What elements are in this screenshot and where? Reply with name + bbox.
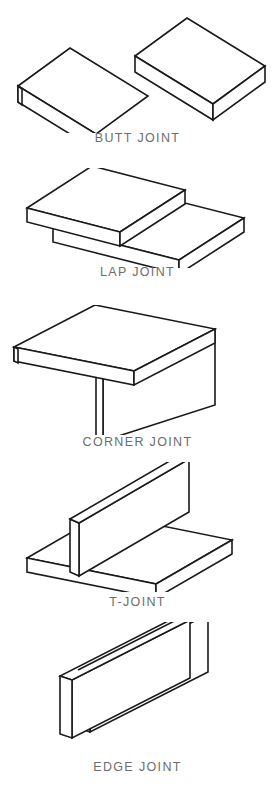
label-t-joint: T-JOINT — [0, 595, 275, 609]
corner-horizontal-plate-end — [14, 347, 18, 363]
figure-butt-joint — [0, 8, 275, 133]
lap-joint-drawing — [0, 168, 275, 268]
edge-near-plate-edge — [60, 676, 72, 738]
label-corner-joint: CORNER JOINT — [0, 435, 275, 449]
figure-lap-joint — [0, 168, 275, 268]
welding-joints-diagram: BUTT JOINT LAP JOINT — [0, 0, 275, 791]
butt-left-plate-end — [18, 86, 22, 105]
edge-joint-drawing — [0, 622, 275, 757]
figure-edge-joint — [0, 622, 275, 757]
label-lap-joint: LAP JOINT — [0, 265, 275, 279]
corner-joint-drawing — [0, 305, 275, 435]
t-joint-drawing — [0, 462, 275, 592]
t-vertical-plate-edge — [70, 519, 79, 576]
label-edge-joint: EDGE JOINT — [0, 760, 275, 774]
figure-corner-joint — [0, 305, 275, 435]
label-butt-joint: BUTT JOINT — [0, 131, 275, 145]
butt-left-plate-top — [18, 48, 148, 133]
butt-joint-drawing — [0, 8, 275, 133]
figure-t-joint — [0, 462, 275, 592]
